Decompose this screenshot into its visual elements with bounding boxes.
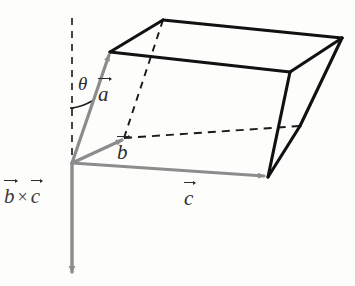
vector-c-glyph: c: [184, 188, 193, 209]
vector-parallelepiped-figure: θ a b c b×c: [0, 0, 355, 286]
top-edge-left-back: [110, 20, 163, 52]
figure-canvas: [0, 0, 355, 286]
parallelepiped-solid-edges: [110, 20, 342, 177]
hidden-edge-vertical: [124, 20, 163, 138]
label-vector-a: a: [98, 84, 109, 105]
vector-a-overarrow-icon: [98, 78, 111, 79]
cross-c-overarrow-icon: [31, 180, 42, 181]
cross-product-operator: ×: [15, 187, 31, 207]
top-edge-front-left: [110, 52, 290, 72]
label-theta: θ: [78, 74, 87, 93]
cross-product-b-glyph: b: [4, 186, 15, 207]
label-b-cross-c: b×c: [4, 186, 40, 207]
vector-c-overarrow-icon: [184, 182, 195, 183]
hidden-edge-horizontal: [124, 126, 300, 138]
cross-b-overarrow-icon: [4, 180, 17, 181]
label-vector-b: b: [117, 142, 128, 163]
parallelepiped-hidden-edges: [124, 20, 300, 138]
cross-product-c-glyph: c: [31, 186, 40, 207]
theta-angle-arc: [72, 101, 92, 108]
top-edge-back-right: [163, 20, 342, 38]
vector-b-overarrow-icon: [117, 136, 130, 137]
vector-a-glyph: a: [98, 84, 109, 105]
vector-c-arrow: [72, 163, 264, 176]
label-vector-c: c: [184, 188, 193, 209]
vector-b-glyph: b: [117, 142, 128, 163]
